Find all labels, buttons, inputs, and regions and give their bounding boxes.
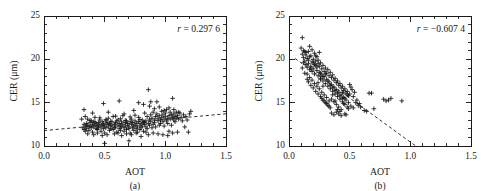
data-point <box>111 114 116 119</box>
data-point <box>127 139 132 144</box>
x-tick-label: 1.5 <box>220 151 232 161</box>
x-axis-ticks: 0.00.51.01.5 <box>38 16 232 161</box>
data-point <box>90 111 95 116</box>
data-point <box>351 94 356 99</box>
data-point <box>124 132 129 137</box>
data-point <box>136 100 141 105</box>
data-point <box>79 117 84 122</box>
data-point <box>307 44 312 49</box>
data-point <box>372 106 377 111</box>
data-point <box>119 133 124 138</box>
y-axis-minor-ticks <box>289 16 471 146</box>
correlation-annotation: r = 0.297 6 <box>177 23 220 34</box>
data-point <box>352 90 357 95</box>
y-tick-label: 15 <box>276 97 286 107</box>
data-point <box>313 89 318 94</box>
x-tick-label: 0.0 <box>38 151 50 161</box>
data-point <box>172 107 177 112</box>
scatter-plot-a: 0.00.51.01.510152025r = 0.297 6AOTCER (μ… <box>0 0 245 191</box>
data-point <box>182 125 187 130</box>
data-point <box>175 130 180 135</box>
y-tick-label: 25 <box>276 10 286 20</box>
plot-frame <box>289 16 471 146</box>
data-point <box>101 101 106 106</box>
data-point <box>117 99 122 104</box>
data-point <box>98 116 103 121</box>
x-tick-label: 0.5 <box>344 151 356 161</box>
panel-subcaption: (a) <box>130 180 141 191</box>
panel-b: 0.00.51.01.510152025r = −0.607 4AOTCER (… <box>245 0 490 191</box>
data-point <box>162 124 167 129</box>
data-point <box>142 111 147 116</box>
x-axis-ticks: 0.00.51.01.5 <box>283 16 477 161</box>
data-point <box>321 84 326 89</box>
data-point <box>102 141 107 146</box>
data-point <box>141 102 146 107</box>
data-point <box>147 104 152 109</box>
y-tick-label: 15 <box>31 97 41 107</box>
y-axis-title: CER (μm) <box>8 61 20 102</box>
data-point <box>170 96 175 101</box>
y-tick-label: 25 <box>31 10 41 20</box>
data-point <box>324 95 329 100</box>
data-point <box>82 107 87 112</box>
data-point <box>83 114 88 119</box>
data-point <box>131 108 136 113</box>
data-point <box>302 71 307 76</box>
data-point <box>369 91 374 96</box>
data-point <box>148 100 153 105</box>
data-point <box>113 114 118 119</box>
data-point <box>300 35 305 40</box>
y-tick-label: 20 <box>276 53 286 63</box>
x-tick-label: 0.0 <box>283 151 295 161</box>
data-point <box>151 131 156 136</box>
data-point <box>146 87 151 92</box>
scatter-plot-b: 0.00.51.01.510152025r = −0.607 4AOTCER (… <box>245 0 490 191</box>
data-point <box>139 134 144 139</box>
data-point <box>317 50 322 55</box>
data-point <box>157 105 162 110</box>
data-point <box>362 108 367 113</box>
data-point <box>305 72 310 77</box>
x-axis-minor-ticks <box>289 16 471 146</box>
scatter-points <box>79 87 193 145</box>
x-tick-label: 1.0 <box>160 151 172 161</box>
figure-container: 0.00.51.01.510152025r = 0.297 6AOTCER (μ… <box>0 0 490 191</box>
x-tick-label: 1.5 <box>465 151 477 161</box>
data-point <box>106 110 111 115</box>
panel-subcaption: (b) <box>374 180 385 191</box>
y-tick-label: 20 <box>31 53 41 63</box>
data-point <box>156 132 161 137</box>
data-point <box>133 113 138 118</box>
scatter-points <box>299 35 404 118</box>
data-point <box>317 87 322 92</box>
data-point <box>186 130 191 135</box>
data-point <box>93 115 98 120</box>
data-point <box>165 133 170 138</box>
data-point <box>299 46 304 51</box>
data-point <box>330 93 335 98</box>
data-point <box>364 109 369 114</box>
x-axis-title: AOT <box>125 166 145 177</box>
data-point <box>155 100 160 105</box>
data-point <box>400 99 405 104</box>
y-tick-label: 10 <box>276 140 286 150</box>
x-axis-title: AOT <box>370 166 390 177</box>
x-tick-label: 1.0 <box>405 151 417 161</box>
correlation-annotation: r = −0.607 4 <box>417 23 465 34</box>
data-point <box>100 133 105 138</box>
data-point <box>300 66 305 71</box>
panel-a: 0.00.51.01.510152025r = 0.297 6AOTCER (μ… <box>0 0 245 191</box>
data-point <box>161 132 166 137</box>
x-tick-label: 0.5 <box>99 151 111 161</box>
y-axis-title: CER (μm) <box>253 61 265 102</box>
data-point <box>146 132 151 137</box>
y-tick-label: 10 <box>31 140 41 150</box>
